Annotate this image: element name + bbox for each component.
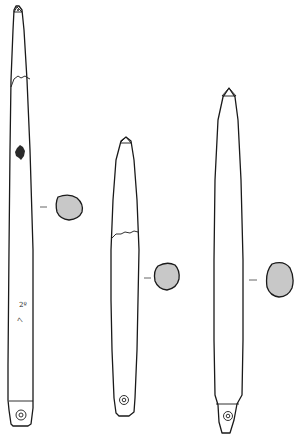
object-3-drawing [214, 88, 243, 433]
object-1-tip-dot [17, 9, 19, 11]
object-2-outline [111, 137, 139, 416]
object-1-outline [8, 6, 33, 426]
object-1-cross-section [56, 195, 82, 220]
object-1-inscription-top: 2º [19, 301, 27, 309]
object-2-cross-section [154, 263, 179, 290]
drawing-canvas: 2º 7 [0, 0, 295, 438]
object-2-drawing [111, 137, 139, 416]
object-1-drawing: 2º 7 [8, 6, 33, 426]
object-3-outline [214, 88, 243, 433]
object-3-cross-section [267, 263, 294, 297]
